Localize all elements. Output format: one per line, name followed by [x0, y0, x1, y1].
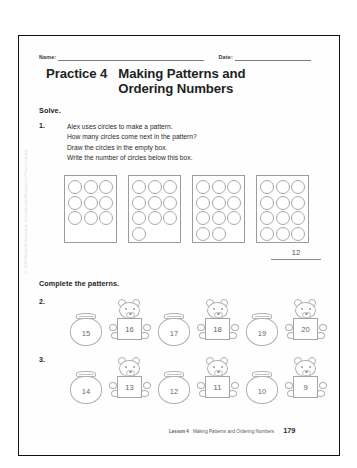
bear-icon: 13 — [109, 356, 151, 406]
bear-paw — [143, 324, 151, 331]
pattern-number: 10 — [258, 385, 266, 396]
circle-icon — [196, 196, 210, 210]
jar-body: 14 — [70, 376, 102, 404]
circle-icon — [84, 211, 98, 225]
question-1-text: Alex uses circles to make a pattern.How … — [67, 122, 325, 164]
circle-icon — [84, 196, 98, 210]
question-1-line-1: Alex uses circles to make a pattern. — [67, 122, 325, 132]
circle-icon — [276, 196, 290, 210]
bear-eye — [125, 308, 127, 310]
bear-head — [119, 302, 140, 319]
bear-number-card: 11 — [205, 376, 230, 398]
circle-icon — [276, 211, 290, 225]
circle-icon — [291, 196, 305, 210]
bear-paw — [285, 382, 293, 389]
bear-paw — [197, 324, 205, 331]
pattern-number: 18 — [213, 325, 221, 334]
bear-icon: 18 — [197, 298, 239, 348]
solve-heading: Solve. — [39, 106, 61, 115]
circle-icon — [260, 211, 274, 225]
bear-paw — [197, 382, 205, 389]
bear-number-card: 18 — [205, 318, 230, 340]
circle-row — [196, 211, 241, 225]
circle-row — [132, 196, 177, 210]
bear-paw — [231, 382, 239, 389]
circle-icon — [260, 196, 274, 210]
jar-body: 10 — [246, 376, 278, 404]
bear-eye — [213, 366, 215, 368]
title-line-2: Ordering Numbers — [118, 81, 245, 96]
circle-box-1[interactable] — [64, 175, 117, 243]
bear-paw — [109, 324, 117, 331]
page-title: Practice 4 Making Patterns and Ordering … — [46, 66, 324, 96]
pattern-number: 20 — [301, 325, 309, 334]
bear-eye — [221, 308, 223, 310]
circle-icon — [163, 211, 177, 225]
circle-boxes-group — [64, 175, 318, 243]
bear-nose — [217, 313, 220, 315]
bear-head — [295, 360, 316, 377]
circle-icon — [99, 196, 113, 210]
bear-eye — [133, 366, 135, 368]
pattern-number: 16 — [125, 325, 133, 334]
jar-icon: 15 — [67, 304, 105, 348]
circle-row — [260, 180, 305, 194]
circle-icon — [196, 211, 210, 225]
question-2-items: 151617181920 — [67, 298, 327, 348]
jar-icon: 10 — [243, 362, 281, 406]
jar-icon: 14 — [67, 362, 105, 406]
circle-icon — [276, 180, 290, 194]
question-2-number: 2. — [39, 298, 45, 305]
question-1-line-2: How many circles come next in the patter… — [67, 132, 325, 142]
circle-row — [68, 196, 113, 210]
circle-icon — [227, 180, 241, 194]
bear-eye — [213, 308, 215, 310]
footer-lesson-title: Making Patterns and Ordering Numbers — [193, 429, 274, 434]
date-input-line[interactable] — [235, 53, 311, 61]
pattern-number: 12 — [170, 385, 178, 396]
footer-lesson-label: Lesson 4 — [169, 429, 189, 434]
circle-box-4[interactable] — [256, 175, 309, 243]
circle-icon — [148, 211, 162, 225]
jar-icon: 12 — [155, 362, 193, 406]
circle-icon — [260, 180, 274, 194]
practice-label: Practice 4 — [46, 66, 107, 81]
pattern-number: 9 — [303, 383, 307, 392]
jar-icon: 17 — [155, 304, 193, 348]
circle-icon — [68, 196, 82, 210]
circle-icon — [84, 180, 98, 194]
bear-eye — [133, 308, 135, 310]
bear-nose — [129, 313, 132, 315]
pattern-number: 14 — [82, 385, 90, 396]
question-1-line-3: Draw the circles in the empty box. — [67, 143, 325, 153]
circle-icon — [99, 180, 113, 194]
circle-row — [68, 180, 113, 194]
bear-icon: 16 — [109, 298, 151, 348]
circle-icon — [132, 227, 146, 241]
bear-head — [119, 360, 140, 377]
pattern-number: 13 — [125, 383, 133, 392]
circle-row — [260, 211, 305, 225]
circle-icon — [196, 227, 210, 241]
jar-body: 17 — [158, 318, 190, 346]
question-1-answer-blank[interactable]: 12 — [271, 248, 321, 260]
circle-icon — [163, 180, 177, 194]
question-3-items: 14131211109 — [67, 356, 327, 406]
question-1-number: 1. — [39, 122, 45, 129]
bear-number-card: 20 — [293, 318, 318, 340]
circle-box-2[interactable] — [128, 175, 181, 243]
bear-paw — [319, 324, 327, 331]
circle-icon — [227, 196, 241, 210]
bear-head — [207, 360, 228, 377]
circle-icon — [212, 211, 226, 225]
pattern-number: 15 — [82, 327, 90, 338]
bear-icon: 11 — [197, 356, 239, 406]
name-input-line[interactable] — [58, 53, 204, 61]
bear-paw — [109, 382, 117, 389]
bear-eye — [301, 366, 303, 368]
circle-row — [132, 180, 177, 194]
bear-eye — [125, 366, 127, 368]
pattern-number: 19 — [258, 327, 266, 338]
circle-box-3[interactable] — [192, 175, 245, 243]
bear-head — [207, 302, 228, 319]
